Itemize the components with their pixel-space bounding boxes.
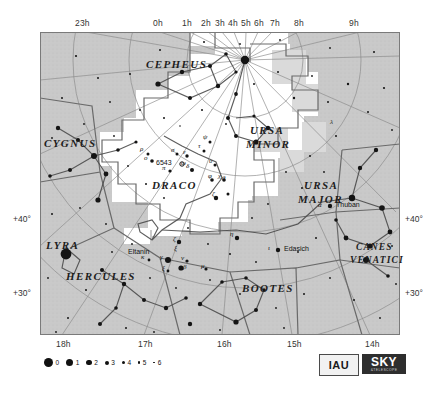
legend-label-mag1: 1 <box>76 359 80 366</box>
constellation-canes-venatici-2: VENATICI <box>350 255 404 265</box>
greek-label-delta: δ <box>186 162 189 170</box>
greek-label-nu: ν <box>181 254 184 262</box>
star-label-thuban: Thuban <box>336 201 360 208</box>
greek-label-theta: θ <box>222 174 225 182</box>
greek-label-epsilon: ε <box>183 148 186 156</box>
greek-label-xi: ξ <box>162 264 165 272</box>
legend-dot-mag3 <box>105 361 109 365</box>
constellation-ursa-minor-1: URSA <box>250 124 284 136</box>
greek-label-pi: π <box>162 164 166 172</box>
greek-label-lambda: λ <box>330 118 333 126</box>
star-label-edasich: Edasich <box>284 245 309 252</box>
greek-label-xi-2: ξ <box>174 244 177 252</box>
legend-item-mag4: 4 <box>122 359 131 366</box>
ra-tick-17h: 17h <box>138 339 153 349</box>
magnitude-legend: 0 1 2 3 4 5 6 <box>44 358 168 367</box>
legend-label-mag3: 3 <box>111 359 115 366</box>
legend-label-mag2: 2 <box>94 359 98 366</box>
legend-label-mag0: 0 <box>56 359 60 366</box>
greek-label-kappa: κ <box>141 253 144 261</box>
ra-tick-3h: 3h <box>215 18 225 28</box>
logo-group: IAU SKY &TELESCOPE <box>319 354 406 376</box>
legend-dot-mag1 <box>66 359 73 366</box>
ra-tick-15h: 15h <box>287 339 302 349</box>
constellation-canes-venatici-1: CANES <box>356 242 393 252</box>
ra-tick-8h: 8h <box>294 18 304 28</box>
iau-logo-text: IAU <box>329 359 349 371</box>
greek-label-zeta: ζ <box>212 190 215 198</box>
legend-item-mag6: 6 <box>153 359 161 366</box>
constellation-cygnus: CYGNUS <box>44 137 96 149</box>
ra-tick-6h: 6h <box>254 18 264 28</box>
constellation-ursa-major-1: URSA <box>304 179 338 191</box>
greek-label-omicron: ο <box>144 154 148 162</box>
telescope-logo-text: &TELESCOPE <box>371 368 398 372</box>
legend-dot-mag5 <box>138 361 140 363</box>
sky-map: CEPHEUS CYGNUS URSA MINOR DRACO URSA MAJ… <box>40 32 400 335</box>
greek-label-upsilon: υ <box>209 157 212 165</box>
legend-dot-mag4 <box>122 361 125 364</box>
ra-tick-5h: 5h <box>241 18 251 28</box>
legend-item-mag0: 0 <box>44 358 59 367</box>
legend-dot-mag2 <box>86 360 91 365</box>
ra-tick-23h: 23h <box>75 18 90 28</box>
legend-label-mag5: 5 <box>143 359 147 366</box>
legend-item-mag5: 5 <box>138 359 146 366</box>
ra-tick-16h: 16h <box>217 339 232 349</box>
constellation-lyra: LYRA <box>46 239 79 251</box>
legend-item-mag1: 1 <box>66 359 79 366</box>
ra-tick-9h: 9h <box>349 18 359 28</box>
greek-label-sigma: σ <box>171 146 174 154</box>
greek-label-omega: ω <box>181 159 186 167</box>
constellation-bootes: BOOTES <box>242 282 294 294</box>
ra-tick-4h: 4h <box>228 18 238 28</box>
greek-label-phi: φ <box>208 172 212 180</box>
star-label-eltanin: Eltanin <box>128 248 149 255</box>
iau-logo: IAU <box>319 354 359 376</box>
dec-tick-left-40: +40° <box>13 214 31 224</box>
ra-tick-2h: 2h <box>201 18 211 28</box>
dec-tick-left-30: +30° <box>13 288 31 298</box>
greek-label-tau: τ <box>198 142 201 150</box>
greek-label-alpha: α <box>318 201 322 209</box>
star-chart: CEPHEUS CYGNUS URSA MINOR DRACO URSA MAJ… <box>0 0 441 400</box>
greek-label-beta: β <box>183 263 187 271</box>
greek-label-zeta-2: ζ <box>173 235 176 243</box>
legend-dot-mag6 <box>153 362 155 364</box>
legend-label-mag4: 4 <box>127 359 131 366</box>
constellation-ursa-minor-2: MINOR <box>246 138 290 150</box>
ra-tick-14h: 14h <box>365 339 380 349</box>
ra-tick-18h: 18h <box>56 339 71 349</box>
sky-and-telescope-logo: SKY &TELESCOPE <box>362 354 406 374</box>
greek-label-rho: ρ <box>140 145 143 153</box>
ra-tick-7h: 7h <box>270 18 280 28</box>
greek-label-psi: ψ <box>203 133 207 141</box>
greek-label-eta: η <box>230 230 233 238</box>
greek-label-chi: χ <box>218 172 221 180</box>
legend-item-mag2: 2 <box>86 359 98 366</box>
legend-item-mag3: 3 <box>105 359 115 366</box>
dec-tick-right-30: +30° <box>405 288 423 298</box>
greek-label-iota: ι <box>268 244 270 252</box>
constellation-cepheus: CEPHEUS <box>146 58 207 70</box>
legend-dot-mag0 <box>44 358 53 367</box>
greek-label-gamma: γ <box>160 253 163 261</box>
sky-logo-text: SKY <box>371 357 397 368</box>
constellation-draco: DRACO <box>152 179 197 191</box>
ra-tick-1h: 1h <box>182 18 192 28</box>
ra-tick-0h: 0h <box>153 18 163 28</box>
constellation-hercules: HERCULES <box>66 270 136 282</box>
dec-tick-right-40: +40° <box>405 214 423 224</box>
sky-map-svg <box>40 32 400 335</box>
legend-label-mag6: 6 <box>158 359 162 366</box>
greek-label-mu: μ <box>201 262 205 270</box>
